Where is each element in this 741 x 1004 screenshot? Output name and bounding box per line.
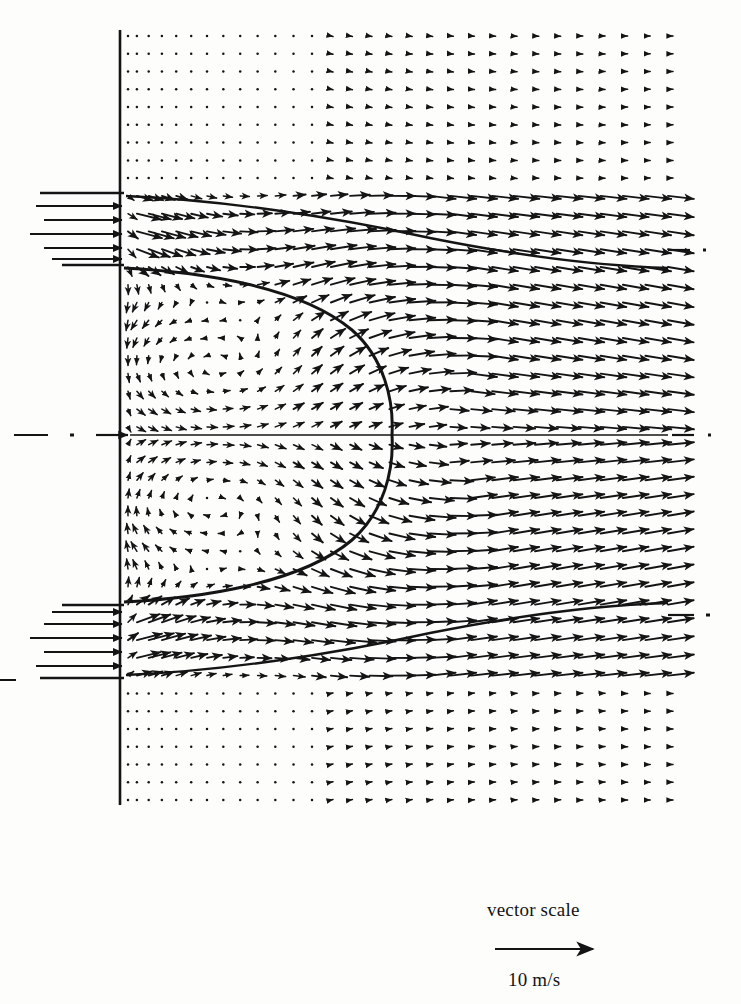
velocity-vector <box>136 35 139 38</box>
velocity-vector <box>222 106 225 109</box>
velocity-vector <box>148 356 149 364</box>
velocity-vector <box>370 178 372 179</box>
velocity-vector <box>175 799 178 802</box>
velocity-vector <box>175 124 178 127</box>
velocity-vector <box>127 745 130 748</box>
velocity-vector <box>223 373 226 374</box>
velocity-vector <box>256 88 259 91</box>
velocity-vector <box>206 177 209 180</box>
velocity-vector <box>147 106 150 109</box>
velocity-vector <box>175 710 178 713</box>
velocity-vector <box>311 88 314 91</box>
velocity-vector <box>311 124 314 127</box>
vector-field-canvas: vector scale 10 m/s <box>0 0 741 1004</box>
velocity-vector <box>239 53 242 56</box>
velocity-vector <box>206 88 209 91</box>
velocity-vector <box>240 622 258 623</box>
velocity-vector <box>370 764 372 765</box>
velocity-vector <box>127 763 130 766</box>
velocity-vector <box>274 53 277 56</box>
velocity-vector <box>223 498 225 499</box>
velocity-vector <box>147 728 150 731</box>
velocity-vector <box>239 177 242 180</box>
velocity-vector <box>239 710 242 713</box>
velocity-vector <box>206 53 209 56</box>
vector-field-figure: vector scale 10 m/s <box>0 0 741 1004</box>
velocity-vector <box>223 303 225 304</box>
velocity-vector <box>221 516 223 517</box>
velocity-vector <box>239 159 242 162</box>
velocity-vector <box>127 692 130 695</box>
velocity-vector <box>202 550 207 551</box>
velocity-vector <box>222 728 225 731</box>
velocity-vector <box>222 141 225 144</box>
velocity-vector <box>292 106 295 109</box>
velocity-vector <box>256 177 259 180</box>
velocity-vector <box>274 141 277 144</box>
velocity-vector <box>190 124 193 127</box>
velocity-vector <box>256 692 259 695</box>
velocity-vector <box>256 781 259 784</box>
velocity-vector <box>147 692 150 695</box>
velocity-vector <box>239 124 242 127</box>
velocity-vector <box>161 35 164 38</box>
velocity-vector <box>292 88 295 91</box>
velocity-vector <box>292 763 295 766</box>
velocity-vector <box>292 745 295 748</box>
velocity-vector <box>292 159 295 162</box>
velocity-vector <box>222 159 225 162</box>
velocity-vector <box>206 781 209 784</box>
velocity-vector <box>292 70 295 73</box>
velocity-vector <box>258 231 276 232</box>
velocity-vector <box>175 70 178 73</box>
velocity-vector <box>136 763 139 766</box>
velocity-vector <box>256 141 259 144</box>
velocity-vector <box>258 622 276 623</box>
velocity-vector <box>256 35 259 38</box>
velocity-vector <box>311 763 314 766</box>
velocity-vector <box>127 781 130 784</box>
velocity-vector <box>223 568 226 569</box>
velocity-vector <box>222 763 225 766</box>
velocity-vector <box>206 141 209 144</box>
velocity-vector <box>136 692 139 695</box>
velocity-vector <box>239 745 242 748</box>
velocity-vector <box>274 159 277 162</box>
velocity-vector <box>350 195 370 196</box>
velocity-vector <box>136 781 139 784</box>
velocity-vector <box>207 427 218 428</box>
velocity-vector <box>127 70 130 73</box>
velocity-vector <box>207 374 209 375</box>
velocity-vector <box>350 178 352 179</box>
velocity-vector <box>240 302 244 303</box>
velocity-vector <box>222 177 225 180</box>
velocity-vector <box>161 799 164 802</box>
velocity-vector <box>370 125 372 126</box>
paper-background <box>0 0 741 1004</box>
velocity-vector <box>331 746 333 747</box>
velocity-vector <box>331 711 333 712</box>
velocity-vector <box>450 427 466 428</box>
velocity-vector <box>207 462 216 463</box>
velocity-vector <box>161 710 164 713</box>
velocity-vector <box>161 53 164 56</box>
velocity-vector <box>223 445 234 446</box>
velocity-vector <box>175 141 178 144</box>
velocity-vector <box>275 195 286 196</box>
velocity-vector <box>175 728 178 731</box>
velocity-vector <box>206 497 209 500</box>
velocity-vector <box>222 692 225 695</box>
velocity-vector <box>201 533 207 534</box>
velocity-vector <box>147 799 150 802</box>
velocity-vector <box>221 355 223 356</box>
velocity-vector <box>147 35 150 38</box>
velocity-vector <box>136 141 139 144</box>
velocity-vector <box>370 711 372 712</box>
velocity-vector <box>127 53 130 56</box>
velocity-vector <box>207 479 213 480</box>
velocity-vector <box>136 106 139 109</box>
velocity-vector <box>206 692 209 695</box>
velocity-vector <box>202 320 207 321</box>
velocity-vector <box>204 515 207 516</box>
velocity-vector <box>311 177 314 180</box>
